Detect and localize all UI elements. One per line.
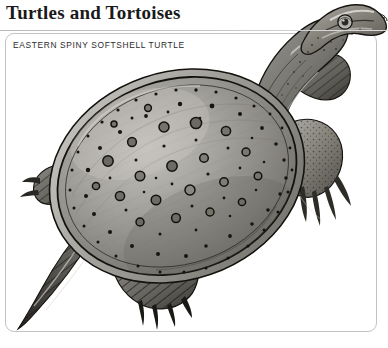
page-title: Turtles and Tortoises bbox=[6, 2, 181, 24]
illustration-frame bbox=[5, 33, 377, 332]
field-guide-page: Turtles and Tortoises EASTERN SPINY SOFT… bbox=[0, 0, 388, 348]
eye bbox=[338, 15, 352, 29]
title-divider-rule bbox=[0, 30, 388, 31]
species-caption-label: EASTERN SPINY SOFTSHELL TURTLE bbox=[13, 40, 185, 50]
